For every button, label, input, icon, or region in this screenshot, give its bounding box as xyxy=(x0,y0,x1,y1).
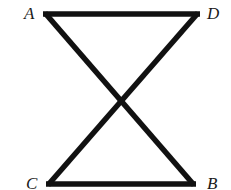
point-label-B: B xyxy=(207,174,218,190)
geometry-diagram: A D C B xyxy=(0,0,231,190)
diagram-svg: A D C B xyxy=(0,0,231,190)
point-label-D: D xyxy=(206,4,220,23)
point-label-C: C xyxy=(26,174,38,190)
point-label-A: A xyxy=(23,4,35,23)
